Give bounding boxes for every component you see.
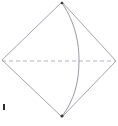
edge-left-bottom <box>2 60 62 117</box>
curved-arc <box>62 3 79 116</box>
edge-top-left <box>2 2 62 60</box>
bottom-vertex-dot <box>60 114 63 117</box>
figure-canvas <box>0 0 118 126</box>
lower-left-tick-mark <box>3 104 5 110</box>
top-vertex-dot <box>61 2 64 5</box>
geometry-diagram <box>0 0 118 126</box>
edge-right-bottom <box>62 61 116 117</box>
edge-top-right <box>62 2 116 61</box>
